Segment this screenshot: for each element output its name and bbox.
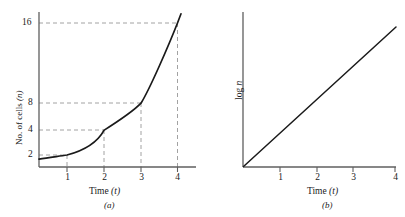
panel-b-x-axis-title-main: Time: [307, 186, 327, 196]
panel-a-ytick-4: 4: [28, 125, 33, 135]
panel-a-guide-lines: [39, 23, 178, 167]
panel-b-x-axis-title-var: (t): [329, 186, 338, 196]
panel-a-plot-area: [0, 0, 203, 217]
panel-a-y-axis-title-var: (n): [14, 91, 24, 102]
panel-b-xtick-3: 3: [349, 173, 358, 183]
panel-b-xtick-4: 4: [391, 173, 400, 183]
panel-a-x-axis-title: Time (t): [89, 187, 120, 197]
panel-a-y-axis-title: No. of cells (n): [14, 91, 24, 146]
figure-container: 16 8 4 2 1 2 3 4 No. of cells (n) Time (…: [0, 0, 405, 217]
panel-b-y-axis-title-main: log: [234, 88, 244, 100]
panel-a-ytick-8: 8: [28, 98, 33, 108]
panel-a-caption: (a): [104, 201, 115, 210]
panel-b-y-axis-title: log n: [234, 81, 244, 100]
panel-a-xtick-4: 4: [173, 173, 182, 183]
panel-b-x-axis-title: Time (t): [307, 187, 338, 197]
panel-a-ytick-16: 16: [22, 18, 32, 28]
panel-a-x-axis-title-main: Time: [89, 186, 109, 196]
panel-a-y-axis-title-main: No. of cells: [14, 103, 24, 145]
panel-b-xtick-1: 1: [276, 173, 285, 183]
panel-a-exponential-plot: 16 8 4 2 1 2 3 4 No. of cells (n) Time (…: [0, 0, 203, 217]
panel-a-exponential-curve: [39, 14, 181, 159]
panel-a-xtick-1: 1: [63, 173, 72, 183]
panel-b-x-ticks: [280, 167, 395, 172]
panel-b-y-axis-title-var: n: [234, 81, 244, 86]
panel-b-log-line: [244, 27, 397, 167]
panel-b-plot-area: [203, 0, 405, 217]
panel-a-xtick-2: 2: [100, 173, 109, 183]
panel-b-log-plot: 1 2 3 4 log n Time (t) (b): [203, 0, 405, 217]
panel-a-x-axis-title-var: (t): [111, 186, 120, 196]
panel-a-x-ticks: [67, 167, 178, 172]
panel-b-caption: (b): [322, 201, 333, 210]
panel-a-xtick-3: 3: [137, 173, 146, 183]
panel-b-xtick-2: 2: [313, 173, 322, 183]
panel-a-ytick-2: 2: [28, 150, 33, 160]
